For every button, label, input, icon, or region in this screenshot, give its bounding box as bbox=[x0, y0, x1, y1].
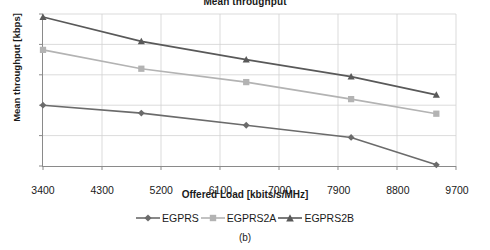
square-marker-icon bbox=[200, 212, 226, 224]
x-tick-marks bbox=[39, 14, 456, 170]
legend-label: EGPRS2B bbox=[303, 212, 355, 224]
chart-title: Mean throughput bbox=[0, 0, 490, 7]
series-markers bbox=[39, 13, 439, 168]
diamond-marker-icon bbox=[135, 212, 161, 224]
legend-item-egprs2a[interactable]: EGPRS2A bbox=[200, 212, 278, 224]
legend-label: EGPRS bbox=[161, 212, 200, 224]
chart-legend: EGPRSEGPRS2AEGPRS2B bbox=[0, 212, 490, 224]
y-axis-title: Mean throughput [kbps] bbox=[11, 3, 22, 133]
plot-svg bbox=[43, 14, 456, 166]
legend-label: EGPRS2A bbox=[226, 212, 278, 224]
plot-area: 90140190240290340 3400430052006100700079… bbox=[42, 14, 456, 167]
legend-item-egprs[interactable]: EGPRS bbox=[135, 212, 200, 224]
gridlines bbox=[43, 14, 456, 166]
figure-caption: (b) bbox=[0, 232, 490, 243]
x-axis-title: Offered Load [kbits/s/MHz] bbox=[0, 189, 490, 200]
legend-item-egprs2b[interactable]: EGPRS2B bbox=[277, 212, 355, 224]
triangle-marker-icon bbox=[277, 212, 303, 224]
chart-figure: Mean throughput Mean throughput [kbps] 9… bbox=[0, 0, 490, 250]
